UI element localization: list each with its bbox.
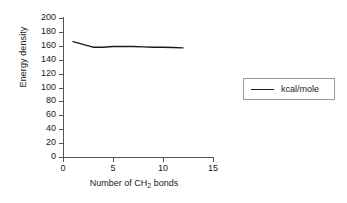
x-tick-label-0: 0 bbox=[48, 163, 78, 173]
y-tick-label-80: 80 bbox=[0, 96, 56, 105]
x-axis-title-suffix: bonds bbox=[151, 178, 178, 188]
series-kcal-per-mole bbox=[63, 18, 214, 158]
legend-line-swatch bbox=[251, 89, 274, 90]
x-tick-label-15: 15 bbox=[198, 163, 228, 173]
series-polyline bbox=[73, 42, 183, 48]
x-axis-title-prefix: Number of CH bbox=[90, 178, 148, 188]
y-tick-label-0: 0 bbox=[0, 152, 56, 161]
x-axis-title: Number of CH2 bonds bbox=[44, 178, 224, 191]
x-tick-label-10: 10 bbox=[148, 163, 178, 173]
y-tick-label-40: 40 bbox=[0, 124, 56, 133]
y-tick-label-140: 140 bbox=[0, 55, 56, 64]
legend-label-kcal-per-mole: kcal/mole bbox=[281, 84, 319, 94]
x-tick-15 bbox=[213, 158, 214, 162]
y-tick-label-120: 120 bbox=[0, 69, 56, 78]
y-tick-label-160: 160 bbox=[0, 41, 56, 50]
line-chart: Energy density 0204060801001201401601802… bbox=[0, 0, 347, 203]
y-tick-label-60: 60 bbox=[0, 110, 56, 119]
y-tick-label-100: 100 bbox=[0, 83, 56, 92]
x-tick-5 bbox=[113, 158, 114, 162]
x-tick-0 bbox=[63, 158, 64, 162]
legend: kcal/mole bbox=[243, 78, 335, 100]
x-tick-label-5: 5 bbox=[98, 163, 128, 173]
x-tick-10 bbox=[163, 158, 164, 162]
y-tick-label-180: 180 bbox=[0, 27, 56, 36]
y-tick-label-200: 200 bbox=[0, 13, 56, 22]
y-tick-label-20: 20 bbox=[0, 138, 56, 147]
